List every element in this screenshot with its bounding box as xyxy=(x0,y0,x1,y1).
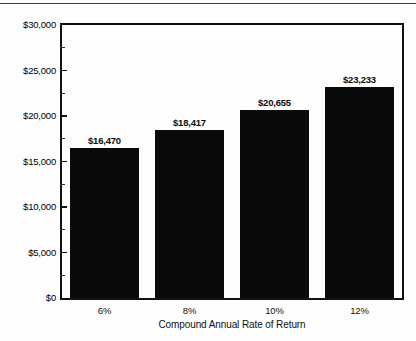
bar xyxy=(325,87,394,298)
y-axis-minor-tick xyxy=(60,229,65,230)
y-axis-major-tick xyxy=(60,161,67,163)
chart-page: $0$5,000$10,000$15,000$20,000$25,000$30,… xyxy=(0,0,416,341)
y-axis-tick-label: $25,000 xyxy=(0,66,56,76)
y-axis-tick-label: $0 xyxy=(0,293,56,303)
y-axis-minor-tick xyxy=(60,275,65,276)
bar-value-label: $23,233 xyxy=(315,74,404,85)
x-axis-title: Compound Annual Rate of Return xyxy=(60,319,404,331)
y-axis-tick-label: $10,000 xyxy=(0,202,56,212)
x-axis-tick-label: 12% xyxy=(310,305,409,316)
y-axis-tick-label: $20,000 xyxy=(0,111,56,121)
bar xyxy=(70,148,139,298)
y-axis-major-tick xyxy=(60,206,67,208)
bar-value-label: $20,655 xyxy=(230,97,319,108)
y-axis-major-tick xyxy=(60,115,67,117)
y-axis-tick-label: $15,000 xyxy=(0,157,56,167)
y-axis-major-tick xyxy=(60,70,67,72)
bar xyxy=(240,110,309,298)
y-axis-minor-tick xyxy=(60,93,65,94)
bars-container xyxy=(62,25,402,298)
y-axis-major-tick xyxy=(60,252,67,254)
bar-value-label: $16,470 xyxy=(60,135,149,146)
y-axis-tick-label: $30,000 xyxy=(0,20,56,30)
y-axis-labels: $0$5,000$10,000$15,000$20,000$25,000$30,… xyxy=(0,0,56,341)
y-axis-minor-tick xyxy=(60,184,65,185)
bar xyxy=(155,130,224,298)
bar-value-label: $18,417 xyxy=(145,117,234,128)
y-axis-tick-label: $5,000 xyxy=(0,248,56,258)
y-axis-minor-tick xyxy=(60,47,65,48)
top-divider-rule xyxy=(0,3,416,4)
